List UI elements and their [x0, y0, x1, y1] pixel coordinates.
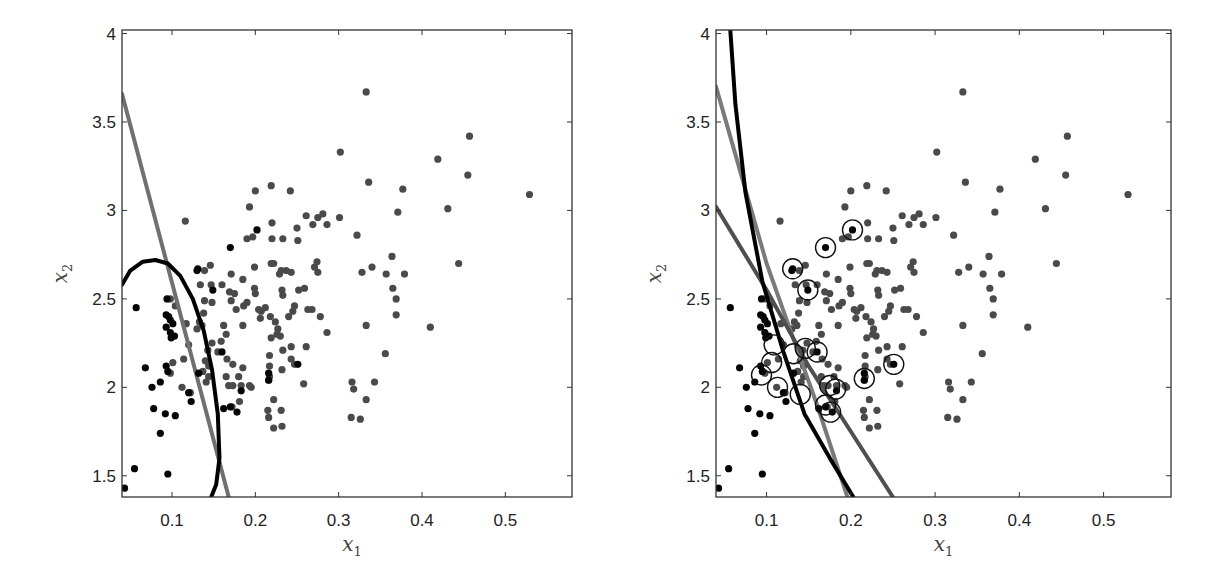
x-axis: 0.10.20.30.40.5: [160, 30, 517, 530]
data-point: [821, 288, 828, 295]
data-point: [266, 352, 273, 359]
data-point: [861, 414, 868, 421]
data-point: [394, 209, 401, 216]
data-point: [835, 364, 842, 371]
data-point: [401, 271, 408, 278]
data-point: [201, 297, 208, 304]
data-point: [1032, 156, 1039, 163]
data-point: [890, 237, 897, 244]
data-point: [363, 88, 370, 95]
data-point: [466, 133, 473, 140]
data-point: [933, 148, 940, 155]
data-point: [863, 334, 870, 341]
data-point: [131, 465, 138, 472]
data-point: [945, 378, 952, 385]
data-point: [835, 302, 842, 309]
data-point: [867, 318, 874, 325]
data-point: [990, 295, 997, 302]
y-tick-label: 4: [701, 25, 710, 44]
data-point: [846, 285, 853, 292]
data-point: [195, 370, 202, 377]
data-point: [851, 306, 858, 313]
data-point: [759, 470, 766, 477]
data-point: [835, 322, 842, 329]
data-point: [980, 271, 987, 278]
data-point: [900, 306, 907, 313]
data-point: [358, 269, 365, 276]
data-point: [863, 182, 870, 189]
data-point: [1053, 260, 1060, 267]
data-point: [200, 309, 207, 316]
data-point: [236, 398, 243, 405]
data-point: [303, 212, 310, 219]
data-point: [915, 210, 922, 217]
data-point: [455, 260, 462, 267]
data-point: [180, 355, 187, 362]
data-point: [288, 343, 295, 350]
data-point: [1064, 133, 1071, 140]
figure: 0.10.20.30.40.51.522.533.54x1x2 0.10.20.…: [0, 0, 1224, 580]
data-point: [773, 384, 780, 391]
data-point: [304, 306, 311, 313]
data-point: [278, 407, 285, 414]
data-point: [201, 267, 208, 274]
data-point: [823, 271, 830, 278]
data-point: [818, 331, 825, 338]
data-point: [227, 244, 234, 251]
data-point: [228, 297, 235, 304]
data-point: [959, 396, 966, 403]
data-point: [207, 262, 214, 269]
y-axis-label: x2: [48, 264, 75, 284]
data-point: [959, 322, 966, 329]
data-point: [270, 424, 277, 431]
data-point: [223, 355, 230, 362]
data-point: [953, 416, 960, 423]
data-point: [427, 324, 434, 331]
data-point: [251, 263, 258, 270]
data-point: [725, 465, 732, 472]
data-point: [990, 311, 997, 318]
data-point: [764, 320, 771, 327]
data-point: [268, 182, 275, 189]
data-point: [382, 350, 389, 357]
data-point: [899, 343, 906, 350]
data-point: [1024, 324, 1031, 331]
data-point: [295, 286, 302, 293]
data-point: [444, 205, 451, 212]
data-point: [291, 302, 298, 309]
data-point: [218, 281, 225, 288]
data-point: [203, 378, 210, 385]
data-point: [248, 384, 255, 391]
data-point: [955, 269, 962, 276]
data-point: [348, 414, 355, 421]
y-tick-label: 2: [107, 378, 116, 397]
data-point: [905, 221, 912, 228]
right-scatter-panel: 0.10.20.30.40.51.522.533.54x1x2: [642, 25, 1171, 559]
data-point: [272, 318, 279, 325]
x-tick-label: 0.4: [410, 511, 434, 530]
data-point: [824, 361, 831, 368]
data-point: [873, 407, 880, 414]
data-point: [178, 384, 185, 391]
data-point: [857, 304, 864, 311]
data-point: [164, 470, 171, 477]
data-point: [323, 329, 330, 336]
data-point: [226, 288, 233, 295]
data-point: [920, 329, 927, 336]
data-point: [363, 322, 370, 329]
data-point: [169, 320, 176, 327]
y-tick-label: 1.5: [92, 467, 116, 486]
data-point: [264, 407, 271, 414]
data-point: [337, 148, 344, 155]
data-point: [193, 325, 200, 332]
data-point: [262, 304, 269, 311]
x-tick-label: 0.2: [244, 511, 268, 530]
data-point: [371, 378, 378, 385]
y-tick-label: 2: [701, 378, 710, 397]
data-point: [883, 187, 890, 194]
data-point: [852, 315, 859, 322]
data-point: [157, 378, 164, 385]
plot-area: [121, 88, 533, 497]
data-point: [962, 179, 969, 186]
data-point: [294, 237, 301, 244]
